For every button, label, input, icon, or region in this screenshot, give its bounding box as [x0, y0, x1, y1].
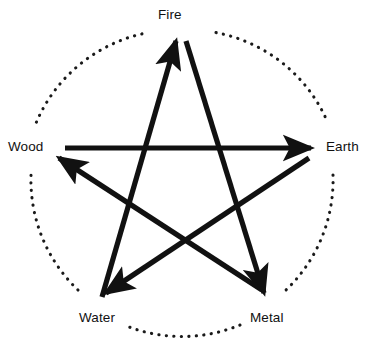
dotted-circle-group — [31, 33, 333, 337]
wuxing-diagram: Fire Earth Metal Water Wood — [0, 0, 370, 362]
node-label-metal: Metal — [250, 311, 284, 325]
edge-water-to-fire — [102, 41, 176, 297]
node-label-wood: Wood — [8, 140, 43, 154]
dotted-arc-metal-to-water — [124, 325, 240, 337]
dotted-arc-water-to-wood — [31, 175, 78, 290]
node-label-water: Water — [79, 311, 115, 325]
wuxing-svg-canvas — [0, 0, 370, 362]
edge-fire-to-metal — [186, 41, 264, 293]
node-label-earth: Earth — [326, 140, 359, 154]
pentagram-edges-group — [59, 41, 311, 297]
edge-metal-to-wood — [59, 158, 262, 290]
node-label-fire: Fire — [158, 8, 182, 22]
dotted-arc-wood-to-fire — [36, 33, 148, 123]
dotted-arc-fire-to-earth — [216, 33, 328, 123]
dotted-arc-earth-to-metal — [286, 175, 333, 290]
